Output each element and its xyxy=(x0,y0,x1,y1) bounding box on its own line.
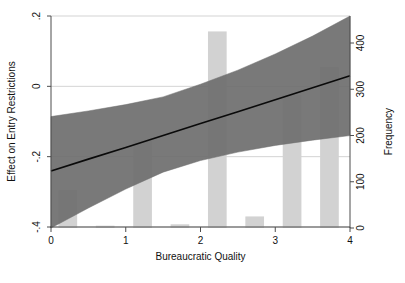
y-tick-label-left: -.4 xyxy=(31,221,42,233)
y-axis-title-left: Effect on Entry Restrictions xyxy=(6,61,17,181)
y-tick-label-right: 300 xyxy=(355,80,366,97)
chart-figure: .20-.2-.4400300200100001234Bureaucratic … xyxy=(0,0,405,283)
x-axis-title: Bureaucratic Quality xyxy=(155,251,245,262)
x-tick-label: 2 xyxy=(198,235,204,246)
y-tick-label-right: 100 xyxy=(355,173,366,190)
y-tick-label-right: 0 xyxy=(355,225,366,231)
x-tick-label: 0 xyxy=(48,235,54,246)
x-tick-label: 4 xyxy=(347,235,353,246)
y-tick-label-left: -.2 xyxy=(31,150,42,162)
y-axis-title-right: Frequency xyxy=(383,108,394,155)
x-tick-label: 3 xyxy=(272,235,278,246)
x-tick-label: 1 xyxy=(123,235,129,246)
y-tick-label-left: .2 xyxy=(31,11,42,20)
marginal-effects-plot: .20-.2-.4400300200100001234Bureaucratic … xyxy=(0,0,405,283)
y-tick-label-right: 400 xyxy=(355,34,366,51)
histogram-bar xyxy=(245,216,264,228)
y-tick-label-right: 200 xyxy=(355,127,366,144)
y-tick-label-left: 0 xyxy=(31,83,42,89)
